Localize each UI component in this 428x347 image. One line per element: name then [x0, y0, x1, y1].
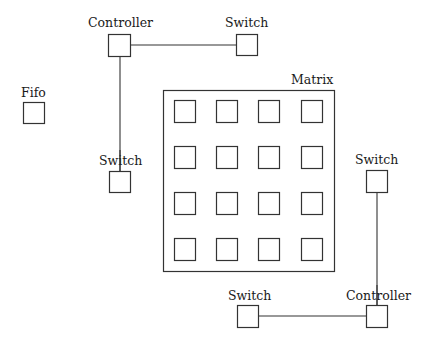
switch-bottom-label: Switch [228, 288, 271, 303]
switch-left-box [110, 172, 131, 193]
connections [120, 45, 377, 316]
matrix-cell [259, 147, 280, 169]
controller-bottom-label: Controller [346, 288, 411, 303]
switch-top-right-box [237, 35, 258, 56]
matrix-cells [175, 101, 323, 261]
switch-top-right-label: Switch [225, 15, 268, 30]
controller-bottom-box [367, 306, 388, 328]
matrix-cell [302, 193, 323, 215]
matrix-cell [175, 101, 196, 123]
fifo-label: Fifo [21, 85, 46, 100]
switch-top-right: Switch [225, 15, 268, 56]
matrix-label: Matrix [291, 72, 333, 87]
fifo-box [24, 103, 45, 124]
matrix-cell [175, 239, 196, 261]
switch-bottom-box [238, 306, 259, 328]
matrix-cell [259, 101, 280, 123]
matrix: Matrix [164, 72, 335, 272]
matrix-cell [259, 193, 280, 215]
switch-right-label: Switch [355, 152, 398, 167]
matrix-cell [302, 239, 323, 261]
matrix-cell [302, 101, 323, 123]
matrix-cell [175, 147, 196, 169]
switch-left-label: Switch [99, 153, 142, 168]
matrix-cell [302, 147, 323, 169]
switch-left: Switch [99, 150, 142, 193]
matrix-cell [217, 193, 238, 215]
controller-top-box [109, 35, 131, 57]
matrix-cell [217, 147, 238, 169]
matrix-cell [175, 193, 196, 215]
controller-top: Controller [88, 15, 153, 57]
block-diagram: Controller Switch Fifo Switch Matrix [0, 0, 428, 347]
matrix-cell [217, 239, 238, 261]
switch-bottom: Switch [228, 288, 271, 328]
matrix-cell [217, 101, 238, 123]
switch-right-box [367, 171, 388, 193]
matrix-cell [259, 239, 280, 261]
switch-right: Switch [355, 152, 398, 193]
fifo: Fifo [21, 85, 46, 124]
controller-top-label: Controller [88, 15, 153, 30]
controller-bottom: Controller [346, 285, 411, 328]
